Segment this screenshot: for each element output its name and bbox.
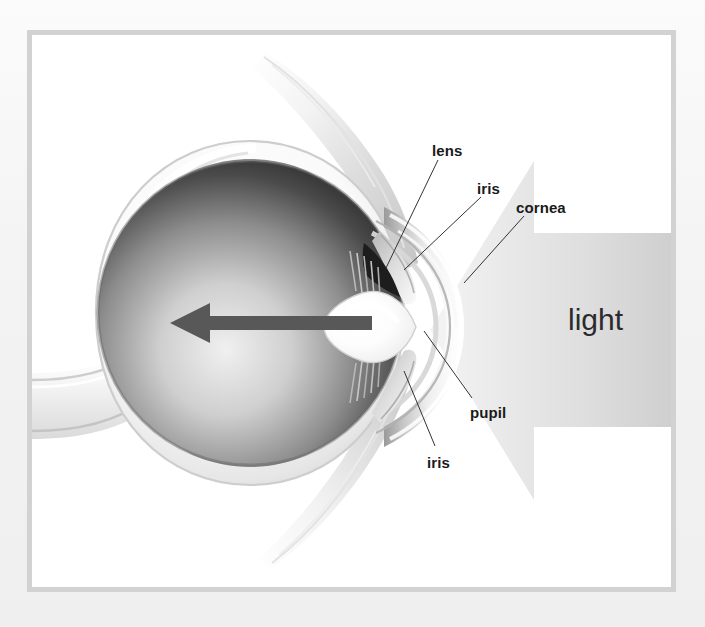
label-iris-top: iris (477, 181, 500, 196)
label-pupil: pupil (470, 405, 506, 420)
label-lens: lens (432, 143, 462, 158)
diagram-canvas: lens iris cornea pupil iris light (32, 35, 671, 587)
label-cornea: cornea (516, 200, 566, 215)
label-light: light (568, 305, 623, 335)
figure-page: lens iris cornea pupil iris light (0, 0, 705, 627)
label-iris-bottom: iris (427, 455, 450, 470)
